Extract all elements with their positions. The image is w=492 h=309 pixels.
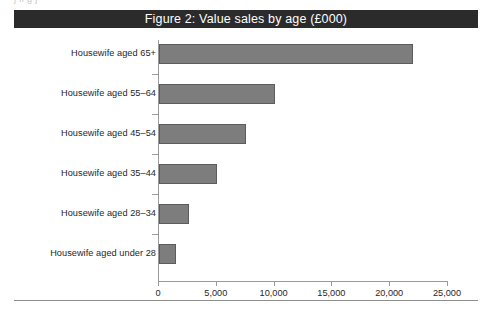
category-axis-tick bbox=[152, 114, 159, 115]
category-label: Housewife aged 65+ bbox=[71, 48, 156, 58]
value-axis-tick-label: 15,000 bbox=[317, 288, 345, 298]
value-axis-tick-label: 20,000 bbox=[375, 288, 403, 298]
value-axis-tick bbox=[389, 281, 390, 286]
category-label: Housewife aged under 28 bbox=[50, 248, 156, 258]
value-axis-tick bbox=[331, 281, 332, 286]
value-axis-tick-label: 10,000 bbox=[260, 288, 288, 298]
value-axis-tick-label: 25,000 bbox=[433, 288, 461, 298]
category-label: Housewife aged 45–54 bbox=[61, 128, 156, 138]
category-axis-tick bbox=[152, 154, 159, 155]
bar-row: Housewife aged 45–54 bbox=[0, 116, 492, 156]
page-top-bleed-text: j ll g j bbox=[0, 0, 492, 9]
category-label: Housewife aged 55–64 bbox=[61, 88, 156, 98]
value-axis-line bbox=[158, 281, 447, 282]
value-axis-tick bbox=[274, 281, 275, 286]
bar-row: Housewife aged 28–34 bbox=[0, 196, 492, 236]
category-axis-tick bbox=[152, 234, 159, 235]
footer-divider bbox=[14, 300, 478, 301]
bar bbox=[159, 124, 246, 144]
bar bbox=[159, 244, 176, 264]
value-axis-tick bbox=[158, 281, 159, 286]
category-axis-tick bbox=[152, 194, 159, 195]
bar bbox=[159, 84, 275, 104]
value-axis-tick-label: 5,000 bbox=[204, 288, 227, 298]
category-axis-tick bbox=[152, 74, 159, 75]
category-label: Housewife aged 28–34 bbox=[61, 208, 156, 218]
bar bbox=[159, 204, 189, 224]
category-label: Housewife aged 35–44 bbox=[61, 168, 156, 178]
value-axis-tick-label: 0 bbox=[155, 288, 160, 298]
bar-row: Housewife aged 65+ bbox=[0, 36, 492, 76]
page-title: Figure 2: Value sales by age (£000) bbox=[145, 12, 347, 26]
bar bbox=[159, 44, 413, 64]
figure-title-bar: Figure 2: Value sales by age (£000) bbox=[14, 10, 478, 28]
bar-row: Housewife aged under 28 bbox=[0, 236, 492, 276]
bar-row: Housewife aged 35–44 bbox=[0, 156, 492, 196]
bar-row: Housewife aged 55–64 bbox=[0, 76, 492, 116]
chart-plot-area: Housewife aged 65+Housewife aged 55–64Ho… bbox=[0, 30, 492, 292]
value-axis-tick bbox=[216, 281, 217, 286]
bar bbox=[159, 164, 217, 184]
value-axis-tick bbox=[447, 281, 448, 286]
